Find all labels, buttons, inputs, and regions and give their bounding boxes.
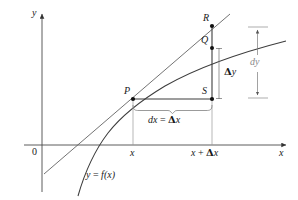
point-label-R: R [203, 13, 209, 23]
figure-canvas [0, 0, 298, 200]
dx-equals-sign: = [157, 114, 168, 125]
dx-delta-sign: Δ [168, 114, 176, 125]
origin-label: 0 [32, 147, 37, 157]
delta-y-label: Δy [224, 67, 236, 77]
curve-eq-equals: = [90, 169, 101, 180]
curve-equation-label: y = f(x) [86, 170, 115, 180]
point-label-Q: Q [201, 35, 208, 45]
point-P-marker [131, 97, 135, 101]
axes-group [24, 14, 286, 192]
dx-brace [133, 105, 212, 114]
y-axis-label: y [32, 8, 36, 18]
tick-label-x-plus-delta-x: x + Δx [191, 148, 218, 158]
dy-label: dy [250, 57, 259, 67]
dx-x-term: x [176, 114, 180, 125]
tick-plus-sign: + [195, 147, 206, 158]
tick-delta-sign: Δ [206, 147, 214, 158]
delta-y-bracket [216, 48, 222, 99]
dx-equals-delta-x-label: dx = Δx [148, 115, 180, 125]
point-Q-marker [210, 46, 214, 50]
delta-y-var: y [232, 66, 236, 77]
tick-label-x: x [130, 148, 134, 158]
point-S-marker [210, 97, 214, 101]
dy-var: y [255, 56, 259, 67]
point-label-S: S [202, 86, 207, 96]
curve-eq-arg: (x) [104, 169, 115, 180]
point-label-P: P [124, 86, 130, 96]
point-R-marker [210, 24, 214, 28]
differentials-figure: y x 0 P Q R S x x + Δx Δy dy dx = Δx y =… [0, 0, 298, 200]
tick-x-term-2: x [214, 147, 218, 158]
dx-brace-path [133, 105, 212, 114]
delta-y-greek: Δ [224, 66, 232, 77]
x-axis-label: x [279, 148, 283, 158]
